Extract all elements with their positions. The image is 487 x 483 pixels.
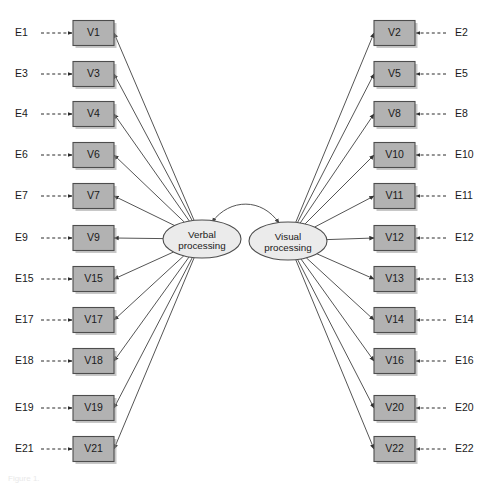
observed-variable-boxes: V1V3V4V6V7V9V15V17V18V19V21V2V5V8V10V11V…: [73, 21, 418, 465]
observed-variable-V2[interactable]: V2: [374, 21, 415, 46]
box-label-V6: V6: [87, 148, 100, 160]
error-label-E9: E9: [15, 231, 28, 243]
loading-path-V3: [114, 74, 192, 221]
loading-path-V21: [114, 258, 194, 449]
observed-variable-V6[interactable]: V6: [73, 143, 114, 168]
loading-path-V6: [114, 155, 184, 222]
verbal-processing-label-line1: Verbal: [188, 229, 216, 240]
error-label-E6: E6: [15, 148, 28, 160]
visual-processing-label-line1: Visual: [275, 231, 302, 242]
error-label-E15: E15: [15, 272, 34, 284]
box-label-V1: V1: [87, 26, 100, 38]
observed-variable-V3[interactable]: V3: [73, 62, 114, 87]
observed-variable-V15[interactable]: V15: [73, 267, 114, 292]
loading-path-V7: [114, 196, 175, 226]
loading-path-V12: [327, 238, 374, 240]
visual-processing-label-line2: processing: [264, 242, 311, 253]
observed-variable-V7[interactable]: V7: [73, 184, 114, 209]
box-label-V9: V9: [87, 231, 100, 243]
observed-variable-V11[interactable]: V11: [374, 184, 415, 209]
observed-variable-V20[interactable]: V20: [374, 396, 415, 421]
error-label-E5: E5: [455, 67, 468, 79]
error-label-E21: E21: [15, 442, 34, 454]
box-label-V5: V5: [388, 67, 401, 79]
factor-loading-paths: [114, 33, 374, 449]
box-label-V15: V15: [84, 272, 103, 284]
observed-variable-V16[interactable]: V16: [374, 349, 415, 374]
error-label-E20: E20: [455, 401, 474, 413]
box-label-V4: V4: [87, 107, 100, 119]
error-label-E16: E16: [455, 354, 474, 366]
error-label-E11: E11: [455, 189, 473, 201]
loading-path-V1: [114, 33, 194, 220]
box-label-V16: V16: [385, 354, 404, 366]
box-label-V20: V20: [385, 401, 404, 413]
loading-path-V8: [300, 114, 374, 223]
loading-path-V11: [315, 196, 374, 227]
observed-variable-V17[interactable]: V17: [73, 308, 114, 333]
loading-path-V17: [114, 256, 184, 320]
observed-variable-V13[interactable]: V13: [374, 267, 415, 292]
error-label-E12: E12: [455, 231, 474, 243]
error-label-E17: E17: [15, 313, 34, 325]
box-label-V21: V21: [84, 442, 103, 454]
box-label-V19: V19: [84, 401, 103, 413]
box-label-V14: V14: [385, 313, 404, 325]
box-label-V12: V12: [385, 231, 404, 243]
error-label-E14: E14: [455, 313, 474, 325]
error-label-E8: E8: [455, 107, 468, 119]
box-label-V22: V22: [385, 442, 404, 454]
factor-visual-processing[interactable]: Visual processing: [249, 222, 327, 260]
error-label-E10: E10: [455, 148, 474, 160]
factor-verbal-processing[interactable]: Verbal processing: [163, 220, 241, 258]
error-label-E19: E19: [15, 401, 34, 413]
error-label-E1: E1: [15, 26, 28, 38]
loading-path-V18: [114, 257, 189, 361]
error-label-E2: E2: [455, 26, 468, 38]
observed-variable-V8[interactable]: V8: [374, 102, 415, 127]
observed-variable-V4[interactable]: V4: [73, 102, 114, 127]
covariance-double-arrow: [212, 204, 279, 223]
error-label-E13: E13: [455, 272, 474, 284]
observed-variable-V12[interactable]: V12: [374, 226, 415, 251]
verbal-visual-covariance-arc: [212, 204, 279, 223]
error-label-E3: E3: [15, 67, 28, 79]
loading-path-V9: [114, 238, 163, 239]
box-label-V7: V7: [87, 189, 100, 201]
observed-variable-V5[interactable]: V5: [374, 62, 415, 87]
box-label-V3: V3: [87, 67, 100, 79]
error-label-E4: E4: [15, 107, 28, 119]
verbal-processing-label-line2: processing: [178, 240, 225, 251]
box-label-V11: V11: [386, 189, 404, 201]
observed-variable-V19[interactable]: V19: [73, 396, 114, 421]
error-label-E7: E7: [15, 189, 28, 201]
error-label-E22: E22: [455, 442, 474, 454]
loading-path-V20: [298, 259, 375, 408]
error-label-E18: E18: [15, 354, 34, 366]
observed-variable-V18[interactable]: V18: [73, 349, 114, 374]
observed-variable-V21[interactable]: V21: [73, 437, 114, 462]
observed-variable-V10[interactable]: V10: [374, 143, 415, 168]
observed-variable-V1[interactable]: V1: [73, 21, 114, 46]
observed-variable-V9[interactable]: V9: [73, 226, 114, 251]
loading-path-V22: [296, 260, 374, 449]
loading-path-V15: [114, 252, 174, 279]
observed-variable-V14[interactable]: V14: [374, 308, 415, 333]
box-label-V2: V2: [388, 26, 401, 38]
box-label-V17: V17: [84, 313, 103, 325]
box-label-V10: V10: [385, 148, 404, 160]
box-label-V13: V13: [385, 272, 404, 284]
loading-path-V5: [298, 74, 375, 223]
loading-path-V19: [114, 257, 192, 408]
observed-variable-V22[interactable]: V22: [374, 437, 415, 462]
box-label-V18: V18: [84, 354, 103, 366]
loading-path-V4: [114, 114, 189, 221]
box-label-V8: V8: [388, 107, 401, 119]
